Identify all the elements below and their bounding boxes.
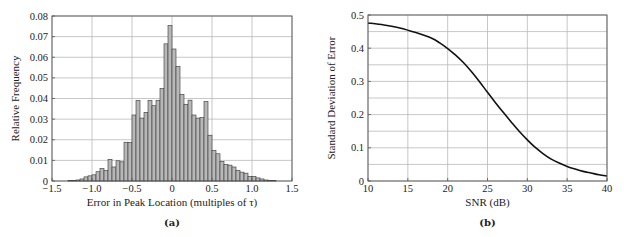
histogram-bar	[96, 172, 100, 181]
histogram-bar	[152, 106, 156, 181]
histogram-bar	[256, 178, 260, 181]
x-tick-labels: 10152025303540	[363, 178, 613, 194]
y-tick-label: 0.03	[30, 114, 48, 125]
x-axis-title: SNR (dB)	[465, 196, 510, 209]
histogram-bar	[180, 94, 184, 181]
histogram-bar	[88, 176, 92, 181]
histogram-bar	[104, 171, 108, 181]
x-tick-label: 35	[562, 183, 573, 194]
y-tick-label: 0.04	[30, 93, 49, 104]
histogram-bars	[68, 26, 276, 181]
x-axis-title: Error in Peak Location (multiples of τ)	[87, 196, 258, 209]
x-tick-label: 0	[169, 183, 174, 194]
histogram-bar	[216, 154, 220, 181]
y-tick-label: 0.05	[30, 72, 48, 83]
histogram-bar	[144, 112, 148, 181]
histogram-bar	[208, 135, 212, 181]
histogram-bar	[196, 118, 200, 181]
histogram-bar	[140, 118, 144, 181]
y-tick-label: 0.4	[351, 43, 365, 54]
x-tick-label: 15	[403, 183, 414, 194]
x-tick-label: 25	[482, 183, 493, 194]
y-tick-label: 0	[359, 176, 364, 187]
y-tick-label: 0	[43, 176, 48, 187]
x-tick-label: 20	[442, 183, 453, 194]
histogram-chart: −1.5−1.0−0.500.51.01.5 00.010.020.030.04…	[9, 11, 299, 229]
x-tick-label: 0.5	[205, 183, 218, 194]
histogram-bar	[200, 118, 204, 181]
histogram-bar	[220, 161, 224, 181]
histogram-bar	[132, 115, 136, 181]
chart-caption: (b)	[479, 217, 495, 228]
y-tick-labels: 00.010.020.030.040.050.060.070.08	[30, 11, 55, 187]
y-tick-label: 0.1	[351, 142, 364, 153]
histogram-bar	[156, 101, 160, 181]
y-tick-label: 0.06	[30, 52, 48, 63]
histogram-bar	[192, 115, 196, 181]
histogram-bar	[184, 104, 188, 181]
x-tick-label: 10	[363, 183, 374, 194]
y-tick-label: 0.08	[30, 11, 48, 22]
x-tick-label: −0.5	[122, 183, 141, 194]
histogram-bar	[84, 177, 88, 181]
x-tick-label: 1.0	[245, 183, 258, 194]
histogram-bar	[244, 173, 248, 181]
grid-lines	[368, 15, 607, 181]
histogram-bar	[160, 89, 164, 181]
histogram-bar	[240, 172, 244, 181]
histogram-bar	[168, 26, 172, 181]
histogram-bar	[204, 102, 208, 181]
histogram-bar	[172, 49, 176, 181]
x-tick-label: 40	[602, 183, 613, 194]
histogram-bar	[232, 167, 236, 181]
chart-caption: (a)	[164, 217, 180, 228]
y-tick-label: 0.02	[30, 134, 48, 145]
histogram-bar	[236, 170, 240, 181]
figure: −1.5−1.0−0.500.51.01.5 00.010.020.030.04…	[0, 0, 624, 237]
histogram-bar	[100, 169, 104, 181]
histogram-bar	[128, 142, 132, 181]
y-axis-title: Standard Deviation of Error	[325, 36, 337, 159]
y-tick-label: 0.3	[351, 76, 364, 87]
histogram-bar	[248, 176, 252, 181]
histogram-bar	[120, 162, 124, 181]
histogram-bar	[108, 159, 112, 181]
x-tick-label: −1.0	[82, 183, 101, 194]
x-tick-label: 1.5	[285, 183, 298, 194]
histogram-bar	[228, 165, 232, 181]
histogram-bar	[176, 67, 180, 181]
y-axis-title: Relative Frequency	[9, 55, 21, 141]
histogram-bar	[92, 175, 96, 181]
y-tick-label: 0.07	[30, 31, 48, 42]
histogram-bar	[112, 167, 116, 181]
histogram-bar	[212, 150, 216, 181]
histogram-bar	[164, 44, 168, 181]
histogram-bar	[116, 161, 120, 181]
line-chart: 10152025303540 00.10.20.30.40.5 SNR (dB)…	[325, 10, 612, 229]
y-tick-label: 0.5	[351, 10, 364, 21]
y-tick-label: 0.01	[30, 155, 48, 166]
histogram-bar	[148, 101, 152, 181]
x-tick-label: 30	[522, 183, 533, 194]
histogram-bar	[124, 142, 128, 181]
histogram-bar	[224, 165, 228, 182]
histogram-bar	[136, 101, 140, 181]
histogram-bar	[188, 100, 192, 181]
y-tick-label: 0.2	[351, 109, 364, 120]
histogram-bar	[252, 176, 256, 181]
